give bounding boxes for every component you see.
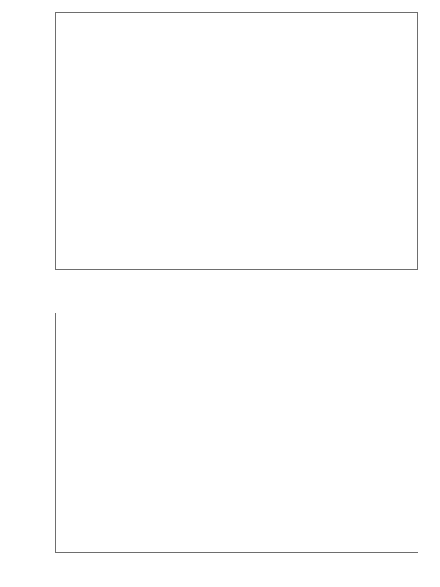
plot-area-top [55,12,418,270]
legend-swatch-agriculture [293,321,319,324]
legend-item-construction[interactable] [293,349,326,363]
legend-item-agriculture[interactable] [293,315,326,329]
area-series-svg [56,13,418,270]
legend-item-manufacturing[interactable] [293,332,326,346]
legend-swatch-services [293,372,319,375]
plot-area-bottom [55,313,418,553]
legend-swatch-manufacturing [293,338,319,341]
legend [293,315,326,380]
line-series-svg [56,313,418,553]
area-chart-top [0,0,440,292]
legend-item-services[interactable] [293,366,326,380]
line-chart-bottom [0,303,440,587]
figure-root [0,0,440,587]
legend-swatch-construction [293,355,319,358]
